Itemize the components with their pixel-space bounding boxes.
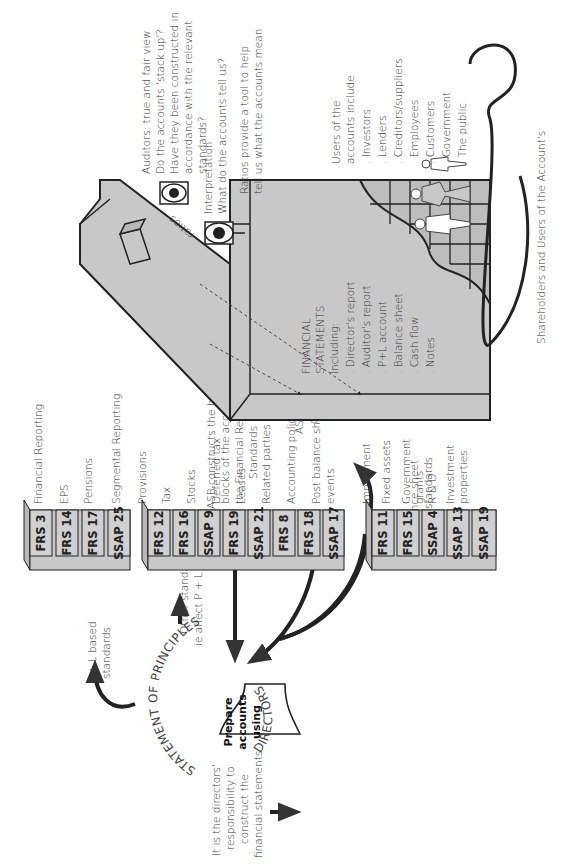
svg-text:SSAP 21: SSAP 21 <box>252 506 266 559</box>
svg-text:. Auditor's report: . Auditor's report <box>360 285 372 374</box>
svg-text:events: events <box>324 469 336 504</box>
svg-text:R & D: R & D <box>426 474 438 504</box>
svg-text:standards: standards <box>100 627 112 679</box>
svg-text:FRS 3: FRS 3 <box>34 515 48 552</box>
svg-text:accordance with the relevant: accordance with the relevant <box>182 21 194 174</box>
svg-text:Auditors: true and fair view: Auditors: true and fair view <box>140 31 152 174</box>
svg-text:Do the accounts 'stack up'?: Do the accounts 'stack up'? <box>154 29 166 174</box>
svg-text:. Customers: . Customers <box>424 101 436 164</box>
svg-text:FRS 14: FRS 14 <box>60 510 74 555</box>
svg-text:FRS 19: FRS 19 <box>227 510 241 555</box>
svg-text:EPS: EPS <box>58 484 70 504</box>
svg-text:Leases: Leases <box>235 468 247 504</box>
svg-text:FRS 11: FRS 11 <box>376 510 390 555</box>
svg-text:Have they been constructed in: Have they been constructed in <box>168 12 180 174</box>
svg-text:P + L based: P + L based <box>86 621 98 684</box>
auditor-eye-icon <box>160 182 188 204</box>
svg-text:. P+L account: . P+L account <box>376 301 388 374</box>
svg-text:FRS 12: FRS 12 <box>152 510 166 555</box>
svg-text:Deferred tax: Deferred tax <box>210 438 222 504</box>
svg-text:. Creditors/suppliers: . Creditors/suppliers <box>392 58 404 164</box>
svg-text:accounts: accounts <box>236 694 249 750</box>
svg-text:Including:: Including: <box>328 323 340 374</box>
svg-text:financial statements: financial statements <box>252 751 264 858</box>
svg-text:. The public: . The public <box>456 103 468 164</box>
svg-text:. Investors: . Investors <box>360 109 372 164</box>
svg-text:Ratios provide a tool to help: Ratios provide a tool to help <box>238 46 250 194</box>
building <box>80 180 490 420</box>
svg-text:Investment: Investment <box>444 445 456 504</box>
users-arrow-label: Shareholders and Users of the Account's <box>535 131 547 344</box>
svg-text:Segmental Reporting: Segmental Reporting <box>110 394 122 504</box>
auditors-note: Auditors: true and fair view Do the acco… <box>140 12 208 174</box>
svg-text:SSAP 9: SSAP 9 <box>202 510 216 555</box>
svg-text:FRS 16: FRS 16 <box>177 510 191 555</box>
svg-text:. Lenders: . Lenders <box>376 116 388 164</box>
svg-text:Fixed assets: Fixed assets <box>380 440 392 504</box>
svg-text:. Cash flow: . Cash flow <box>408 316 420 374</box>
svg-text:. Government: . Government <box>440 92 452 164</box>
svg-text:FRS 8: FRS 8 <box>277 515 291 552</box>
book-stack-pl: FRS 3 FRS 14 FRS 17 SSAP 25 Financial Re… <box>24 394 130 570</box>
svg-text:FRS 17: FRS 17 <box>86 510 100 555</box>
pl-caption: P + L based standards <box>86 621 112 684</box>
svg-text:FRS 15: FRS 15 <box>401 510 415 555</box>
svg-text:accounts include: accounts include <box>344 75 356 164</box>
svg-text:Related parties: Related parties <box>260 424 272 504</box>
svg-text:Provisions: Provisions <box>136 451 148 504</box>
svg-text:. Notes: . Notes <box>424 337 436 374</box>
svg-text:It is the directors': It is the directors' <box>210 764 222 856</box>
svg-text:construct the: construct the <box>238 774 250 844</box>
svg-text:properties: properties <box>457 450 469 504</box>
svg-text:SSAP 4: SSAP 4 <box>426 510 440 555</box>
svg-text:Interpretation: Interpretation <box>202 141 214 214</box>
svg-text:. Balance sheet: . Balance sheet <box>392 293 404 374</box>
svg-text:Users of the: Users of the <box>330 101 342 164</box>
svg-text:SSAP 25: SSAP 25 <box>112 506 126 559</box>
users-figures-icon <box>411 157 470 234</box>
svg-text:Impairment: Impairment <box>360 443 372 504</box>
svg-text:What do the accounts tell us?: What do the accounts tell us? <box>216 58 228 214</box>
svg-text:Standards: Standards <box>247 426 259 479</box>
svg-text:Government: Government <box>400 439 412 504</box>
ratios-note: Ratios provide a tool to help tell us wh… <box>238 29 264 194</box>
svg-text:SSAP 13: SSAP 13 <box>451 506 465 559</box>
diagram-stage: It is the directors' responsibility to c… <box>0 0 564 864</box>
svg-text:. Director's report: . Director's report <box>344 281 356 374</box>
financial-reporting-diagram: It is the directors' responsibility to c… <box>0 0 564 864</box>
svg-text:STATEMENTS: STATEMENTS <box>314 306 326 374</box>
svg-text:Tax: Tax <box>160 487 172 504</box>
svg-text:FRS 18: FRS 18 <box>302 510 316 555</box>
svg-text:responsibility to: responsibility to <box>224 766 236 850</box>
svg-text:tell us what the accounts mean: tell us what the accounts mean <box>252 29 264 194</box>
svg-text:Financial Reporting: Financial Reporting <box>32 404 44 504</box>
users-list: Users of the accounts include . Investor… <box>330 58 468 164</box>
svg-text:Pensions: Pensions <box>82 458 94 504</box>
directors-note: It is the directors' responsibility to c… <box>210 751 264 858</box>
svg-text:. Employees: . Employees <box>408 100 420 164</box>
svg-text:SSAP 19: SSAP 19 <box>477 506 491 559</box>
svg-text:grants: grants <box>413 471 425 504</box>
svg-text:FINANCIAL: FINANCIAL <box>300 318 312 374</box>
svg-text:Prepare: Prepare <box>222 697 235 746</box>
svg-text:Stocks: Stocks <box>185 469 197 504</box>
svg-text:SSAP 17: SSAP 17 <box>327 506 341 559</box>
